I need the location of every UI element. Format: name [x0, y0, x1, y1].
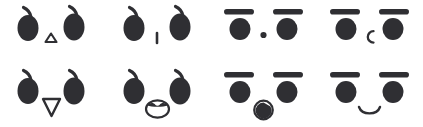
teardrop-eye-left: [124, 8, 145, 42]
brow-bar-right: [379, 9, 409, 15]
round-eye-left: [230, 81, 251, 103]
teardrop-eye-left: [18, 8, 39, 42]
face-cell-4: [318, 0, 423, 64]
face-5: [0, 64, 106, 127]
mouth-circle-with-filled-crescent: [254, 101, 273, 120]
face-grid: [0, 0, 423, 127]
face-cell-7: [212, 64, 318, 127]
mouth-small-triangle-outline: [46, 34, 57, 43]
mouth-dot: [260, 32, 266, 38]
brow-bar-left: [224, 72, 254, 78]
round-eye-right: [277, 18, 298, 40]
teardrop-eye-right: [170, 7, 191, 41]
brow-bar-left: [330, 9, 360, 15]
round-eye-right: [383, 18, 404, 40]
mouth-c-arc: [368, 31, 374, 42]
brow-bar-right: [379, 72, 409, 78]
round-eye-right: [277, 81, 298, 103]
teardrop-eye-left: [18, 71, 39, 105]
face-cell-1: [0, 0, 106, 64]
teardrop-eye-right: [64, 71, 85, 105]
face-2: [106, 0, 212, 64]
face-cell-8: [318, 64, 423, 127]
mouth-smile-arc: [359, 107, 380, 113]
face-cell-2: [106, 0, 212, 64]
face-4: [318, 0, 423, 64]
face-1: [0, 0, 106, 64]
teardrop-eye-left: [124, 71, 145, 105]
brow-bar-left: [330, 72, 360, 78]
face-6: [106, 64, 212, 127]
teardrop-eye-right: [170, 71, 191, 105]
face-cell-5: [0, 64, 106, 127]
round-eye-left: [336, 18, 357, 40]
face-cell-6: [106, 64, 212, 127]
face-8: [318, 64, 423, 127]
round-eye-left: [336, 81, 357, 103]
mouth-open-oval-with-lip: [146, 100, 169, 117]
round-eye-right: [383, 81, 404, 103]
brow-bar-left: [224, 9, 254, 15]
round-eye-left: [230, 18, 251, 40]
mouth-down-triangle-outline: [43, 99, 60, 116]
brow-bar-right: [273, 72, 303, 78]
brow-bar-right: [273, 9, 303, 15]
face-cell-3: [212, 0, 318, 64]
face-7: [212, 64, 318, 127]
face-3: [212, 0, 318, 64]
teardrop-eye-right: [64, 7, 85, 41]
